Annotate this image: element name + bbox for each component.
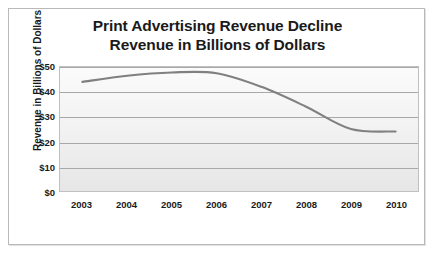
plot-area — [59, 66, 419, 192]
y-axis-tick-usd-0: $0 — [23, 188, 55, 198]
chart-title-line-2: Revenue in Billions of Dollars — [9, 35, 426, 54]
x-axis-tick-2009: 2009 — [329, 199, 374, 211]
x-axis-tick-2006: 2006 — [194, 199, 239, 211]
x-axis-tick-2005: 2005 — [149, 199, 194, 211]
x-axis-tick-2010: 2010 — [374, 199, 419, 211]
y-axis-tick-usd-40: $40 — [23, 87, 55, 97]
line-series — [60, 67, 418, 191]
y-axis-tick-usd-50: $50 — [23, 62, 55, 72]
chart-title: Print Advertising Revenue Decline Revenu… — [9, 16, 426, 54]
x-axis-tick-2004: 2004 — [104, 199, 149, 211]
x-axis-tick-2007: 2007 — [239, 199, 284, 211]
chart-card: Print Advertising Revenue Decline Revenu… — [8, 8, 425, 245]
y-axis-tick-usd-10: $10 — [23, 163, 55, 173]
y-axis-tick-usd-30: $30 — [23, 112, 55, 122]
y-axis-tick-labels: $50$40$30$20$10$0 — [23, 66, 55, 199]
x-axis-tick-labels: 20032004200520062007200820092010 — [59, 199, 419, 213]
x-axis-tick-2003: 2003 — [59, 199, 104, 211]
series-path-print-advertising-revenue — [82, 72, 395, 132]
x-axis-tick-2008: 2008 — [284, 199, 329, 211]
chart-title-line-1: Print Advertising Revenue Decline — [93, 17, 342, 34]
y-axis-tick-usd-20: $20 — [23, 138, 55, 148]
